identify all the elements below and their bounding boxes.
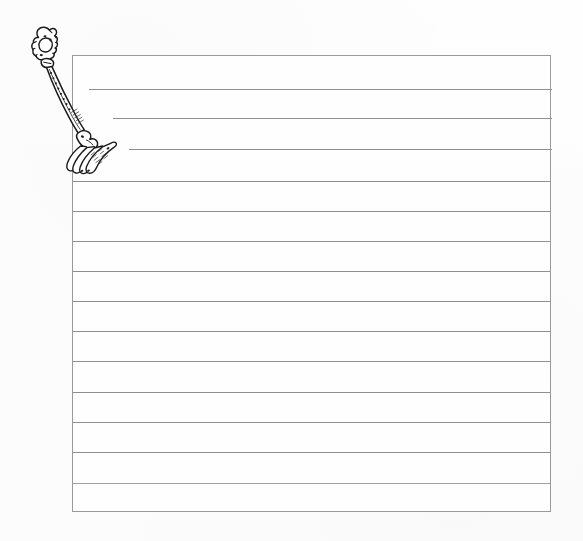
rule-line xyxy=(73,361,550,362)
fork-handle-terminal-icon xyxy=(32,27,58,60)
rule-line xyxy=(73,271,550,272)
fork-illustration xyxy=(24,22,134,180)
rule-line xyxy=(73,301,550,302)
rule-line xyxy=(73,211,550,212)
rule-line xyxy=(73,241,550,242)
fork-tines xyxy=(67,142,117,173)
rule-line xyxy=(73,422,550,423)
rule-line xyxy=(73,181,550,182)
rule-line xyxy=(129,149,552,150)
ruled-sheet[interactable] xyxy=(72,55,551,512)
rule-line xyxy=(73,392,550,393)
rule-line xyxy=(113,118,552,119)
rule-line xyxy=(73,331,550,332)
fork-handle-shaft xyxy=(47,66,85,133)
rule-line xyxy=(73,483,550,484)
rule-line xyxy=(89,89,552,90)
page-root xyxy=(0,0,583,541)
rule-line xyxy=(73,452,550,453)
